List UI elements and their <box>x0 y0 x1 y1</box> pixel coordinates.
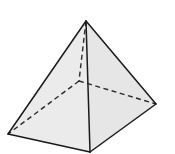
pyramid-face-left <box>8 21 90 152</box>
pyramid-figure <box>0 0 175 154</box>
pyramid-diagram <box>0 0 175 154</box>
